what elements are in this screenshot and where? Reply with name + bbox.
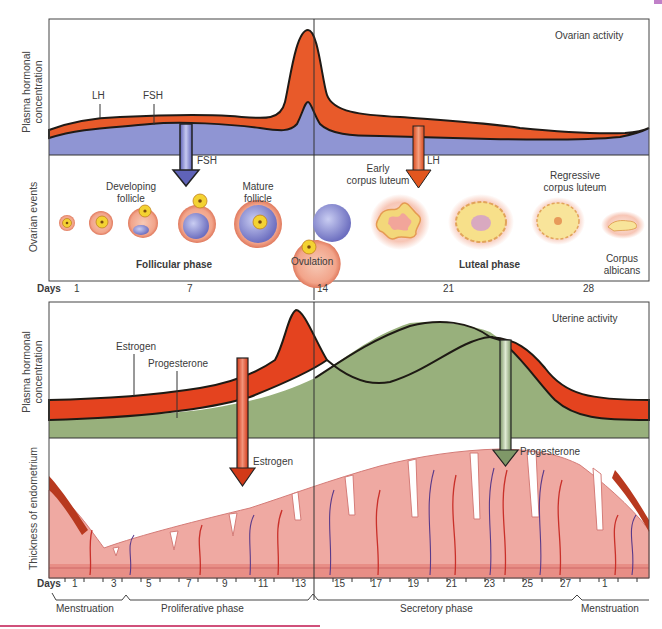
label-line: Corpus [592, 253, 652, 265]
day-tick: 19 [408, 578, 419, 590]
endometrium [49, 449, 649, 578]
ovarian-days-label: Days [37, 283, 61, 295]
label-line: Mature [233, 181, 283, 193]
uterine-y-axis-label: Plasma hormonal concentration [20, 322, 44, 422]
y-label-line1: Plasma hormonal [20, 322, 32, 422]
developing-follicle-label: Developing follicle [96, 181, 166, 205]
y-label-line1: Plasma hormonal [20, 47, 32, 137]
label-line: Developing [96, 181, 166, 193]
label-line: follicle [233, 193, 283, 205]
day-tick: 3 [111, 578, 117, 590]
day-tick: 27 [560, 578, 571, 590]
menstruation-end-label: Menstruation [581, 603, 639, 615]
day-tick: 1 [74, 283, 80, 295]
follicular-phase-label: Follicular phase [136, 259, 212, 271]
day-tick: 28 [583, 283, 594, 295]
label-line: albicans [592, 265, 652, 277]
fsh-label: FSH [143, 90, 163, 102]
menstruation-start-label: Menstruation [56, 603, 114, 615]
estrogen-label: Estrogen [116, 341, 156, 353]
follicle-stages [59, 194, 351, 288]
day-tick: 25 [522, 578, 533, 590]
label-line: Early [338, 163, 418, 175]
day-tick: 7 [187, 283, 193, 295]
regressive-corpus-luteum-label: Regressive corpus luteum [535, 170, 615, 194]
day-tick: 21 [443, 283, 454, 295]
day-tick: 21 [446, 578, 457, 590]
thickness-endometrium-label: Thickness of endometrium [27, 441, 39, 576]
day-tick: 23 [484, 578, 495, 590]
lh-band [49, 30, 649, 140]
progesterone-arrow-label: Progesterone [520, 446, 580, 458]
label-line: corpus luteum [535, 182, 615, 194]
day-tick: 11 [258, 578, 268, 590]
proliferative-phase-label: Proliferative phase [161, 603, 244, 615]
day-tick: 1 [72, 578, 78, 590]
estrogen-arrow-label: Estrogen [253, 456, 293, 468]
fsh-arrow-label: FSH [197, 155, 217, 167]
day-tick: 9 [222, 578, 228, 590]
day-tick: 5 [146, 578, 152, 590]
label-line: corpus luteum [338, 175, 418, 187]
day-tick: 1 [602, 578, 608, 590]
day-tick: 13 [295, 578, 306, 590]
day-tick: 17 [371, 578, 382, 590]
phase-braces [52, 593, 649, 600]
ovarian-events-label: Ovarian events [27, 172, 39, 262]
progesterone-area [49, 322, 649, 438]
y-label-line2: concentration [32, 322, 44, 422]
progesterone-label: Progesterone [148, 358, 208, 370]
luteal-phase-label: Luteal phase [459, 259, 520, 271]
secretory-phase-label: Secretory phase [400, 603, 473, 615]
ovulation-label: Ovulation [291, 256, 333, 268]
label-line: Regressive [535, 170, 615, 182]
ovarian-y-axis-label: Plasma hormonal concentration [20, 47, 44, 137]
corpus-luteum-stages [370, 194, 645, 250]
lh-arrow-label: LH [427, 155, 440, 167]
ovarian-activity-title: Ovarian activity [555, 30, 623, 42]
day-tick: 7 [186, 578, 192, 590]
day-tick: 15 [334, 578, 345, 590]
mature-follicle-label: Mature follicle [233, 181, 283, 205]
uterine-days-label: Days [37, 578, 61, 590]
uterine-activity-title: Uterine activity [552, 313, 618, 325]
day-tick: 14 [317, 283, 328, 295]
corner-tab [654, 0, 662, 4]
y-label-line2: concentration [32, 47, 44, 137]
corpus-albicans-label: Corpus albicans [592, 253, 652, 277]
label-line: follicle [96, 193, 166, 205]
early-corpus-luteum-label: Early corpus luteum [338, 163, 418, 187]
ovarian-panel [49, 19, 649, 300]
lh-label: LH [92, 90, 105, 102]
